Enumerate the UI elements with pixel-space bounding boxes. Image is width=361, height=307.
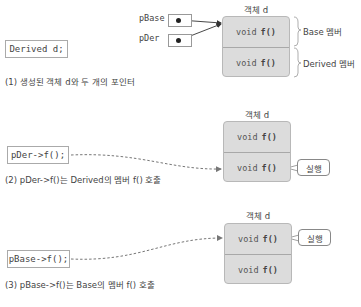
derived-member-cell: voidf() bbox=[224, 152, 290, 182]
execute-callout: 실행 bbox=[297, 159, 330, 176]
object-title: 객체 d bbox=[222, 3, 290, 15]
pder-call-arrow bbox=[71, 155, 221, 169]
execute-label: 실행 bbox=[307, 232, 323, 244]
pbase-call-box: pBase->f(); bbox=[7, 250, 70, 268]
pbase-call-text: pBase->f(); bbox=[9, 254, 69, 264]
derived-member-cell: voidf() bbox=[225, 254, 291, 284]
member-return-type: void bbox=[236, 27, 256, 37]
pointer-label-pbase: pBase bbox=[139, 13, 165, 23]
execute-callout: 실행 bbox=[298, 229, 331, 246]
member-return-type: void bbox=[238, 234, 258, 244]
member-function: f() bbox=[262, 132, 277, 142]
pointer-label-pder: pDer bbox=[139, 33, 159, 43]
member-function: f() bbox=[263, 265, 278, 275]
pointer-dot bbox=[176, 38, 181, 43]
member-return-type: void bbox=[237, 163, 257, 173]
member-function: f() bbox=[263, 234, 278, 244]
derived-member-cell: voidf() bbox=[223, 47, 289, 77]
member-return-type: void bbox=[238, 265, 258, 275]
object-d: voidf() voidf() bbox=[223, 121, 291, 182]
base-member-bracket bbox=[294, 17, 301, 46]
base-member-cell: voidf() bbox=[223, 17, 289, 47]
caption-3: (3) pBase->f()는 Base의 멤버 f() 호출 bbox=[5, 278, 155, 290]
member-function: f() bbox=[261, 58, 276, 68]
base-member-cell: voidf() bbox=[225, 224, 291, 254]
pointer-box-pder bbox=[168, 34, 192, 47]
caption-2: (2) pDer->f()는 Derived의 멤버 f() 호출 bbox=[5, 173, 161, 185]
pder-call-box: pDer->f(); bbox=[7, 146, 69, 164]
caption-1: (1) 생성된 객체 d와 두 개의 포인터 bbox=[5, 75, 135, 87]
derived-member-label: Derived 멤버 bbox=[303, 57, 355, 69]
member-return-type: void bbox=[237, 132, 257, 142]
execute-label: 실행 bbox=[306, 162, 322, 174]
pbase-call-arrow bbox=[71, 238, 222, 259]
object-title: 객체 d bbox=[224, 209, 292, 221]
object-d: voidf() voidf() bbox=[224, 223, 292, 284]
derived-member-bracket bbox=[294, 48, 301, 77]
declaration-box: Derived d; bbox=[5, 40, 68, 58]
member-function: f() bbox=[261, 27, 276, 37]
pder-call-text: pDer->f(); bbox=[11, 150, 65, 160]
member-function: f() bbox=[262, 163, 277, 173]
pointer-dot bbox=[176, 18, 181, 23]
member-return-type: void bbox=[236, 58, 256, 68]
base-member-cell: voidf() bbox=[224, 122, 290, 152]
pointer-box-pbase bbox=[168, 14, 192, 27]
base-member-label: Base 멤버 bbox=[303, 25, 342, 37]
declaration-text: Derived d; bbox=[9, 44, 63, 54]
object-title: 객체 d bbox=[223, 108, 291, 120]
object-d: voidf() voidf() bbox=[222, 16, 290, 77]
